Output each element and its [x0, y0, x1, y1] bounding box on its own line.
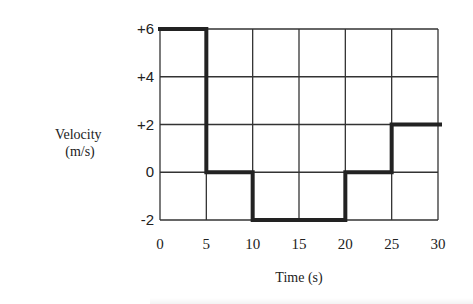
y-tick-label: +6 [137, 20, 154, 37]
y-axis-label-line-2: (m/s) [65, 144, 95, 160]
x-tick-label: 0 [156, 236, 164, 252]
y-axis-label: Velocity (m/s) [55, 127, 105, 160]
x-tick-label: 25 [384, 236, 399, 252]
x-tick-label: 10 [245, 236, 260, 252]
x-tick-label: 5 [203, 236, 211, 252]
y-tick-label: 0 [146, 163, 154, 180]
x-tick-label: 30 [431, 236, 446, 252]
x-axis-ticks: 051015202530 [156, 236, 445, 252]
x-tick-label: 20 [338, 236, 353, 252]
y-tick-label: +4 [137, 68, 154, 85]
y-tick-label: +2 [137, 116, 154, 133]
y-tick-label: -2 [141, 211, 154, 228]
x-tick-label: 15 [292, 236, 307, 252]
bottom-shadow [150, 298, 473, 304]
y-axis-ticks: -20+2+4+6 [137, 20, 154, 228]
y-axis-label-line-1: Velocity [55, 127, 102, 142]
velocity-time-chart: -20+2+4+6 051015202530 Velocity (m/s) Ti… [0, 0, 473, 304]
x-axis-label: Time (s) [275, 270, 323, 286]
